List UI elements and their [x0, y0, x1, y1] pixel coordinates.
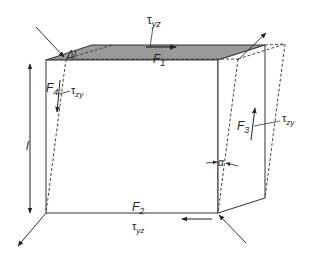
front-face — [46, 60, 218, 213]
force-arrow-bottom-right — [219, 215, 246, 243]
force-arrow-bottom-left — [18, 213, 46, 246]
length-label: l — [26, 139, 29, 153]
tau-zy-right-label: τzy — [282, 112, 295, 127]
delta-l-label: Δl — [66, 49, 77, 60]
tau-yz-bottom-label: τyz — [132, 220, 144, 235]
force-arrow-top-left — [36, 27, 64, 57]
tau-yz-top-label: τyz — [147, 13, 161, 29]
tau-yz-top-leader — [150, 27, 153, 47]
shear-cube-diagram: τyz F1 Δl F4 τzy l F3 τzy α F2 τyz — [0, 0, 317, 257]
alpha-label: α — [218, 157, 224, 168]
